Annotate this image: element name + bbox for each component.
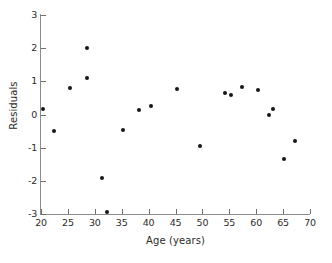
y-tick-label: -2 (28, 175, 37, 186)
x-tick-label: 40 (134, 217, 164, 228)
data-point (271, 107, 275, 111)
x-tick-label: 30 (80, 217, 110, 228)
y-tick-label: 0 (31, 109, 37, 120)
x-tick-label: 50 (187, 217, 217, 228)
data-point (137, 108, 141, 112)
data-point (100, 176, 104, 180)
y-tick-label-holder: 0 (0, 109, 37, 121)
data-point (229, 93, 233, 97)
y-tick-label-holder: 3 (0, 9, 37, 21)
x-tick-label: 35 (107, 217, 137, 228)
x-tick-label: 45 (161, 217, 191, 228)
data-point (121, 128, 125, 132)
y-tick-label: -1 (28, 142, 37, 153)
y-tick-label-holder: -2 (0, 175, 37, 187)
residuals-scatter-figure: -3-2-10123 2025303540455055606570 Age (y… (0, 0, 332, 263)
data-point (85, 46, 89, 50)
data-point (85, 76, 89, 80)
x-tick-label: 55 (214, 217, 244, 228)
data-point (105, 210, 109, 214)
data-point (52, 129, 56, 133)
x-tick-label: 60 (241, 217, 271, 228)
plot-area (41, 15, 310, 214)
x-tick-label: 20 (26, 217, 56, 228)
x-axis-line (40, 214, 310, 215)
x-tick-label: 70 (295, 217, 325, 228)
data-point (175, 87, 179, 91)
y-tick-label: 2 (31, 42, 37, 53)
y-tick-label-holder: -1 (0, 142, 37, 154)
data-point (267, 113, 271, 117)
data-point (223, 91, 227, 95)
x-tick-label: 65 (268, 217, 298, 228)
data-point (293, 139, 297, 143)
data-point (256, 88, 260, 92)
y-tick-mark (41, 214, 46, 215)
y-tick-label-holder: 1 (0, 75, 37, 87)
data-point (282, 157, 286, 161)
y-tick-label: 1 (31, 75, 37, 86)
y-axis-title: Residuals (8, 66, 19, 146)
data-point (240, 85, 244, 89)
x-tick-mark (310, 209, 311, 214)
x-tick-label: 25 (53, 217, 83, 228)
data-point (198, 144, 202, 148)
data-point (149, 104, 153, 108)
data-point (68, 86, 72, 90)
x-axis-title: Age (years) (41, 235, 310, 246)
y-tick-label-holder: 2 (0, 42, 37, 54)
data-point (41, 107, 45, 111)
y-tick-label: 3 (31, 9, 37, 20)
